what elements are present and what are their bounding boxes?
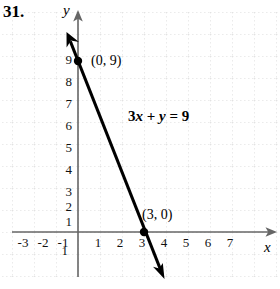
- y-tick-6: 6: [58, 118, 72, 134]
- equation-equals: =: [169, 108, 178, 124]
- y-tick-7: 7: [58, 96, 72, 112]
- equation-variable-y: y: [159, 108, 166, 124]
- x-axis-label: x: [264, 239, 271, 256]
- equation-plus: +: [147, 108, 156, 124]
- equation-coefficient: 3: [128, 108, 136, 124]
- graph-figure: 31. y x 9 8 7 6 5 4 3 2 1 1 -3 -2 -1 1 2…: [0, 0, 280, 289]
- x-tick-6: 6: [200, 235, 216, 251]
- y-tick-3: 3: [58, 184, 72, 200]
- point-label-3-0: (3, 0): [142, 207, 172, 223]
- y-tick-8: 8: [58, 74, 72, 90]
- x-tick-neg-2: -2: [35, 235, 51, 251]
- point-label-0-9: (0, 9): [91, 53, 121, 69]
- y-tick-2: 2: [58, 199, 72, 215]
- y-tick-4: 4: [58, 162, 72, 178]
- y-tick-5: 5: [58, 140, 72, 156]
- x-tick-2: 2: [112, 235, 128, 251]
- problem-number: 31.: [3, 2, 24, 22]
- x-tick-5: 5: [178, 235, 194, 251]
- x-tick-7: 7: [222, 235, 238, 251]
- y-axis-label: y: [63, 2, 70, 19]
- equation-variable-x: x: [136, 108, 144, 124]
- x-tick-4: 4: [156, 235, 172, 251]
- y-tick-9: 9: [58, 52, 72, 68]
- x-tick-neg-1: -1: [55, 235, 71, 251]
- x-tick-3: 3: [134, 235, 150, 251]
- equation-label: 3x + y = 9: [128, 108, 189, 125]
- x-tick-1: 1: [90, 235, 106, 251]
- x-tick-neg-3: -3: [15, 235, 31, 251]
- equation-rhs: 9: [182, 108, 190, 124]
- y-tick-1: 1: [58, 214, 72, 230]
- point-marker-0-9: [74, 57, 82, 65]
